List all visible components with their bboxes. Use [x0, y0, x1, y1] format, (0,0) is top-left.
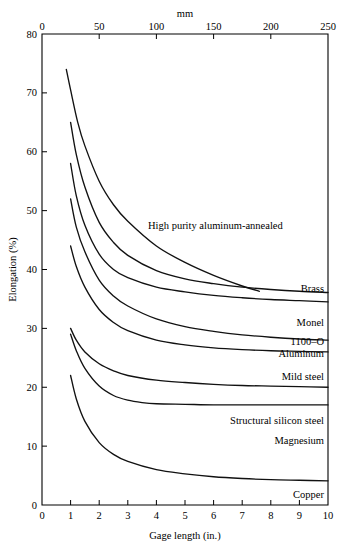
x-tick-label: 5 — [182, 510, 187, 521]
elongation-vs-gage-length-chart: 0123456789100501001502002500102030405060… — [0, 0, 347, 545]
series-label-structural-silicon-steel: Structural silicon steel — [230, 415, 324, 426]
series-label-mild-steel: Mild steel — [282, 371, 324, 382]
labels-group: High purity aluminum-annealedBrassMonel1… — [148, 220, 324, 500]
series-label-magnesium: Magnesium — [274, 435, 324, 446]
chart-svg: 0123456789100501001502002500102030405060… — [0, 0, 347, 545]
y-tick-label: 40 — [27, 264, 38, 275]
top-x-tick-label: 200 — [263, 21, 279, 32]
x-tick-label: 1 — [68, 510, 73, 521]
x-tick-label: 0 — [39, 510, 44, 521]
x-tick-label: 4 — [154, 510, 160, 521]
top-x-tick-label: 250 — [320, 21, 336, 32]
x-tick-label: 10 — [323, 510, 334, 521]
series-label-high-purity-aluminum-annealed: High purity aluminum-annealed — [148, 220, 283, 231]
top-axis-title: mm — [177, 8, 193, 19]
y-tick-label: 0 — [32, 500, 37, 511]
x-tick-label: 6 — [211, 510, 216, 521]
curve-high-purity-aluminum-annealed — [66, 69, 259, 291]
x-axis-title: Gage length (in.) — [149, 530, 221, 542]
x-tick-label: 9 — [297, 510, 302, 521]
y-tick-label: 10 — [27, 441, 38, 452]
series-label-copper: Copper — [293, 489, 324, 500]
y-tick-label: 30 — [27, 323, 38, 334]
x-tick-label: 3 — [125, 510, 130, 521]
curve-copper — [71, 375, 328, 480]
x-tick-label: 7 — [240, 510, 245, 521]
x-tick-label: 2 — [97, 510, 102, 521]
y-axis-title: Elongation (%) — [7, 237, 19, 302]
top-x-tick-label: 50 — [94, 21, 105, 32]
y-tick-label: 60 — [27, 146, 38, 157]
top-x-tick-label: 150 — [206, 21, 222, 32]
y-tick-label: 20 — [27, 382, 38, 393]
y-tick-label: 50 — [27, 205, 38, 216]
series-label-1100-o-aluminum: 1100–O — [291, 336, 325, 347]
series-label-monel: Monel — [297, 317, 324, 328]
x-tick-label: 8 — [268, 510, 273, 521]
y-tick-label: 80 — [27, 29, 38, 40]
curve-brass — [71, 122, 328, 292]
top-x-tick-label: 0 — [39, 21, 44, 32]
series-label-brass: Brass — [301, 283, 324, 294]
series-label-1100-o-aluminum-line2: Aluminum — [278, 348, 324, 359]
top-x-tick-label: 100 — [149, 21, 165, 32]
curve-mild-steel — [71, 246, 328, 352]
y-tick-label: 70 — [27, 87, 38, 98]
